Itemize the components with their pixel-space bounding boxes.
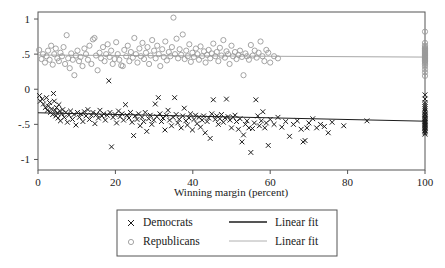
legend: DemocratsLinear fitRepublicansLinear fit [117, 210, 337, 256]
legend-fit-label: Linear fit [275, 235, 319, 247]
y-tick-label: .5 [22, 48, 31, 60]
x-tick-label: 20 [110, 176, 122, 188]
legend-series-label: Republicans [143, 235, 200, 248]
scatter-plot: 020406080100 1.50-.5-1 Winning margin (p… [0, 0, 445, 268]
legend-series-label: Democrats [143, 216, 193, 228]
y-tick-label: 0 [25, 83, 31, 95]
x-tick-label: 100 [417, 176, 434, 188]
legend-fit-label: Linear fit [275, 216, 319, 228]
x-tick-label: 0 [35, 176, 41, 188]
y-tick-label: 1 [25, 13, 31, 25]
chart-container: 020406080100 1.50-.5-1 Winning margin (p… [0, 0, 445, 268]
y-tick-label: -.5 [18, 118, 30, 130]
x-axis-title: Winning margin (percent) [174, 186, 289, 199]
y-tick-label: -1 [21, 153, 30, 165]
x-tick-label: 80 [342, 176, 354, 188]
